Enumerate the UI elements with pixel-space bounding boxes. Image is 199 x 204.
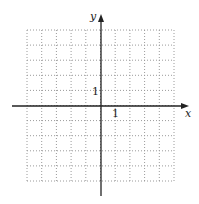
y-axis: [98, 14, 104, 196]
y-unit-tick-label: 1: [92, 85, 99, 98]
y-axis-arrow-icon: [98, 14, 104, 22]
x-unit-tick-label: 1: [112, 107, 119, 120]
grid-svg: y x 1 1: [0, 0, 199, 204]
coordinate-plane: y x 1 1: [0, 0, 199, 204]
x-axis-label: x: [185, 107, 192, 120]
y-axis-label: y: [89, 10, 97, 23]
